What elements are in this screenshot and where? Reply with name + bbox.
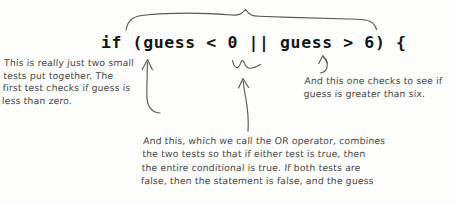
annotation-bottom: And this, which we call the OR operator,… — [141, 134, 454, 188]
code-line: if (guess < 0 || guess > 6) { — [101, 33, 406, 52]
annotation-right: And this one checks to see if guess is g… — [303, 75, 456, 100]
annotation-left: This is really just two small tests put … — [2, 57, 155, 107]
annotated-code-figure: if (guess < 0 || guess > 6) { This is re… — [0, 0, 456, 203]
